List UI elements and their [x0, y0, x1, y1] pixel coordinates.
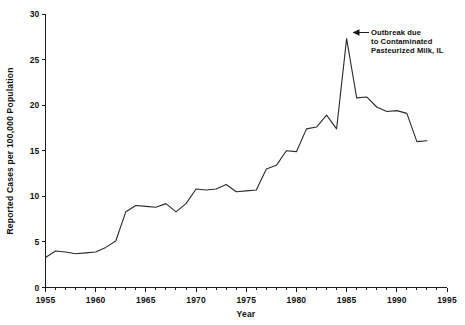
data-series-line: [46, 39, 427, 258]
x-tick-label: 1985: [337, 295, 357, 305]
y-tick-label: 25: [30, 55, 40, 65]
x-tick-label: 1975: [236, 295, 256, 305]
x-tick-label: 1965: [136, 295, 156, 305]
x-tick-label: 1980: [287, 295, 307, 305]
y-tick-label: 0: [35, 283, 40, 293]
chart-figure: 051015202530 195519601965197019751980198…: [0, 0, 465, 325]
x-axis-title: Year: [237, 309, 256, 319]
y-axis-ticks: [42, 14, 46, 288]
x-tick-label: 1995: [437, 295, 457, 305]
x-tick-label: 1970: [186, 295, 206, 305]
y-tick-label: 10: [30, 191, 40, 201]
annotation-line-2: to Contaminated: [371, 37, 433, 46]
annotation-pointer: [353, 29, 370, 36]
x-tick-label: 1960: [86, 295, 106, 305]
line-chart-canvas: 051015202530 195519601965197019751980198…: [0, 0, 465, 325]
x-tick-label: 1990: [387, 295, 407, 305]
annotation-line-3: Pasteurized Milk, IL: [371, 46, 444, 55]
y-axis-tick-labels: 051015202530: [30, 9, 40, 293]
y-axis-title: Reported Cases per 100,000 Population: [5, 67, 15, 234]
y-tick-label: 15: [30, 146, 40, 156]
x-axis-tick-labels: 195519601965197019751980198519901995: [36, 295, 457, 305]
y-tick-label: 30: [30, 9, 40, 19]
arrow-head-icon: [353, 29, 360, 36]
annotation-line-1: Outbreak due: [371, 28, 421, 37]
x-tick-label: 1955: [36, 295, 56, 305]
y-tick-label: 20: [30, 100, 40, 110]
y-tick-label: 5: [35, 237, 40, 247]
